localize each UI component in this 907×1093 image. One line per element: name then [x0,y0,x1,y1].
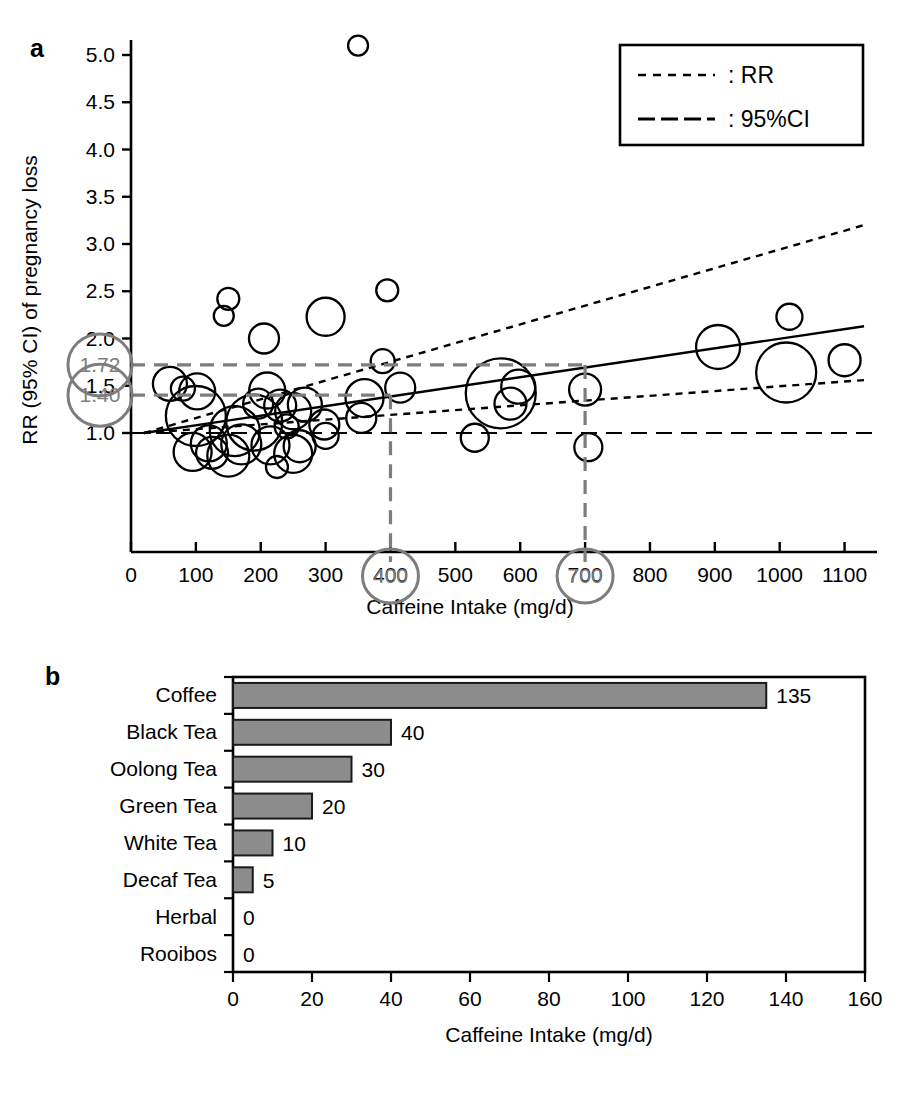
panel-a-annotation-label-400: 400 [373,564,408,587]
panel-b-x-axis-title: Caffeine Intake (mg/d) [445,1023,652,1046]
panel-a-x-tick-label: 500 [438,563,473,586]
panel-b-x-tick-label: 60 [458,987,481,1010]
figure-root: a b 1.01.52.02.53.03.54.04.55.0010020030… [0,0,907,1093]
panel-a-bubble [274,435,312,473]
panel-a-annotation-label-140: 1.40 [80,383,121,406]
panel-b-bar-value-label: 5 [263,869,275,892]
panel-b-category-label: Green Tea [119,794,217,817]
panel-a-x-tick-label: 300 [308,563,343,586]
figure-canvas: 1.01.52.02.53.03.54.04.55.00100200300400… [0,0,907,1093]
panel-a-bubble [461,424,489,452]
panel-a-bubble [266,456,288,478]
panel-b-x-tick-label: 120 [689,987,724,1010]
panel-b-category-label: Coffee [156,683,218,706]
panel-a-x-tick-label: 800 [632,563,667,586]
panel-b-bar-value-label: 40 [401,721,424,744]
panel-a-bubble [501,370,535,404]
panel-a-y-tick-label: 4.0 [86,138,115,161]
panel-a-x-tick-label: 900 [697,563,732,586]
panel-a-y-tick-label: 5.0 [86,43,115,66]
panel-b-bar [233,794,312,819]
panel-a-y-tick-label: 2.5 [86,279,115,302]
panel-a-annotation-label-700: 700 [568,564,603,587]
panel-b-bar [233,683,766,708]
panel-b-bar-value-label: 0 [243,943,255,966]
panel-a-x-tick-label: 100 [178,563,213,586]
panel-b-bar [233,720,391,745]
panel-b-category-label: White Tea [124,831,217,854]
panel-b-x-tick-label: 160 [847,987,882,1010]
panel-b-category-label: Rooibos [140,942,217,965]
panel-b-category-label: Decaf Tea [123,868,217,891]
panel-a-x-axis-title: Caffeine Intake (mg/d) [366,595,573,618]
panel-a-bubble [307,298,345,336]
panel-a-y-axis-title: RR (95% CI) of pregnancy loss [18,155,41,444]
panel-b-category-label: Herbal [155,905,217,928]
panel-b-bar-value-label: 20 [322,795,345,818]
panel-b-bar-value-label: 0 [243,906,255,929]
panel-b-bar [233,867,253,892]
panel-a-x-tick-label: 1100 [822,563,867,586]
panel-a-legend-label-rr: : RR [728,62,774,88]
panel-a-y-tick-label: 3.0 [86,232,115,255]
panel-b-x-tick-label: 80 [537,987,560,1010]
panel-a-bubble [829,344,861,376]
panel-b-x-tick-label: 140 [768,987,803,1010]
panel-a-y-tick-label: 4.5 [86,90,115,113]
panel-b-bar-value-label: 30 [362,758,385,781]
panel-b-x-tick-label: 20 [300,987,323,1010]
panel-a-bubble [371,349,395,373]
panel-b-x-tick-label: 100 [610,987,645,1010]
panel-a-x-tick-label: 600 [503,563,538,586]
panel-a-x-tick-label: 0 [125,563,137,586]
panel-b-category-label: Black Tea [126,720,217,743]
panel-a-legend-label-ci: : 95%CI [728,106,810,132]
panel-a-bubble [776,304,802,330]
panel-b-bar [233,830,273,855]
panel-b-x-tick-label: 40 [379,987,402,1010]
panel-a-bubble [309,409,339,439]
panel-b-bar-value-label: 10 [283,832,306,855]
panel-a-y-tick-label: 2.0 [86,327,115,350]
panel-b-bar [233,757,352,782]
panel-b-bar-value-label: 135 [776,684,811,707]
panel-a-bubble [376,279,398,301]
panel-a-bubble [756,343,816,403]
panel-a-x-tick-label: 200 [243,563,278,586]
panel-a-bubble [574,433,602,461]
panel-b-x-tick-label: 0 [227,987,239,1010]
panel-a-bubble [348,36,368,56]
panel-a-y-tick-label: 3.5 [86,185,115,208]
panel-b-category-label: Oolong Tea [110,757,217,780]
panel-a-bubble [249,324,279,354]
panel-a-x-tick-label: 1000 [756,563,803,586]
